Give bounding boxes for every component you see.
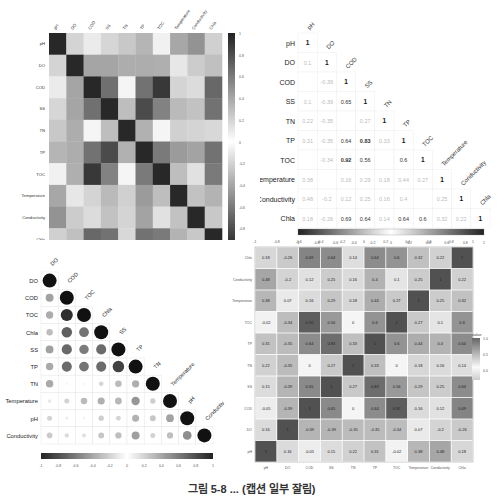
svg-text:1: 1 (344, 78, 348, 85)
row-label: DO (39, 63, 46, 68)
row-label: TN (39, 128, 45, 133)
heatmap-cell (205, 163, 223, 185)
heatmap-cell (101, 33, 119, 55)
svg-text:0.6: 0.6 (427, 240, 432, 244)
svg-text:1: 1 (363, 98, 367, 105)
svg-text:-0.2: -0.2 (437, 427, 445, 432)
svg-text:0.4: 0.4 (159, 464, 164, 468)
svg-text:-1: -1 (253, 240, 256, 244)
correlation-circle (94, 325, 108, 339)
svg-text:-0.26: -0.26 (458, 427, 468, 432)
correlation-circle (98, 432, 104, 438)
svg-text:1: 1 (459, 195, 463, 202)
svg-text:DO: DO (285, 466, 291, 470)
correlation-circle (197, 428, 211, 442)
svg-text:0.65: 0.65 (306, 384, 315, 389)
heatmap-cell (205, 228, 223, 240)
heatmap-cell (84, 98, 102, 120)
svg-text:pH: pH (187, 395, 196, 404)
correlation-circle (47, 433, 53, 439)
svg-text:Conductivity: Conductivity (431, 466, 450, 470)
svg-text:0.2: 0.2 (383, 240, 388, 244)
svg-text:0.64: 0.64 (327, 255, 336, 260)
svg-text:Conductivity: Conductivity (460, 159, 487, 186)
svg-text:0.22: 0.22 (458, 277, 467, 282)
row-label: COD (36, 85, 45, 90)
heatmap-cell (187, 33, 205, 55)
svg-text:-0.4: -0.4 (90, 464, 96, 468)
correlation-circle (116, 416, 121, 421)
svg-text:0.6: 0.6 (394, 341, 400, 346)
svg-text:TP: TP (31, 364, 39, 370)
svg-text:0: 0 (363, 240, 365, 244)
svg-text:-0.35: -0.35 (370, 427, 380, 432)
correlation-circle (64, 398, 69, 403)
svg-text:TN: TN (286, 118, 295, 125)
svg-text:0.38: 0.38 (302, 177, 313, 183)
heatmap-cell (84, 55, 102, 77)
heatmap-cell (187, 163, 205, 185)
svg-text:0.48: 0.48 (262, 277, 271, 282)
correlation-circle (99, 381, 104, 386)
svg-text:1: 1 (472, 240, 474, 244)
svg-text:0.44: 0.44 (398, 177, 409, 183)
heatmap-cell (101, 98, 119, 120)
correlation-circle (61, 309, 73, 321)
heatmap-cell (187, 120, 205, 142)
heatmap-cell (101, 163, 119, 185)
heatmap-cell (118, 76, 136, 98)
row-label: TOC (36, 172, 45, 177)
svg-text:DO: DO (325, 39, 336, 50)
heatmap-cell (101, 228, 119, 240)
heatmap-cell (153, 163, 171, 185)
svg-text:0.16: 0.16 (284, 449, 293, 454)
svg-text:-0.02: -0.02 (392, 449, 402, 454)
svg-text:0.31: 0.31 (262, 341, 271, 346)
svg-text:1: 1 (383, 117, 387, 124)
svg-text:Temperature: Temperature (5, 398, 38, 404)
svg-text:0.92: 0.92 (341, 157, 352, 163)
correlation-circle (150, 398, 155, 403)
row-label: SS (39, 106, 45, 111)
svg-text:pH: pH (248, 450, 253, 454)
svg-text:Temperature: Temperature (260, 176, 295, 184)
svg-text:-0.2: -0.2 (284, 277, 292, 282)
svg-text:-0.35: -0.35 (321, 118, 334, 124)
svg-text:0.16: 0.16 (415, 406, 424, 411)
svg-text:0.44: 0.44 (415, 341, 424, 346)
svg-text:Chla: Chla (101, 305, 114, 318)
svg-text:-0.34: -0.34 (283, 320, 293, 325)
heatmap-cell (205, 207, 223, 229)
svg-text:0.14: 0.14 (379, 216, 390, 222)
correlation-circle (79, 362, 89, 372)
heatmap-cell (170, 55, 188, 77)
svg-text:-0.4: -0.4 (317, 240, 323, 244)
col-label: TN (122, 23, 129, 30)
svg-text:0.6: 0.6 (176, 464, 181, 468)
svg-text:1: 1 (306, 39, 310, 46)
circle-plot-svg: DODOCODCODTOCTOCChlaChlaSSSSTPTPTNTNTemp… (0, 250, 240, 470)
col-label: Conductivity (191, 8, 209, 30)
heatmap-cell (49, 142, 67, 164)
heatmap-cell (84, 142, 102, 164)
svg-text:-0.35: -0.35 (321, 138, 334, 144)
svg-text:SS: SS (118, 326, 128, 336)
heatmap-cell (153, 120, 171, 142)
svg-text:TP: TP (135, 343, 144, 352)
svg-text:SS: SS (247, 385, 252, 389)
row-label: Conductivity (22, 215, 46, 220)
correlation-circle (60, 291, 74, 305)
colorbar (41, 453, 213, 459)
svg-text:0.64: 0.64 (306, 341, 315, 346)
svg-text:-0.4: -0.4 (239, 184, 245, 188)
svg-text:0.22: 0.22 (456, 216, 467, 222)
correlation-circle (79, 327, 89, 337)
svg-text:0.4: 0.4 (372, 277, 378, 282)
svg-text:0.32: 0.32 (415, 255, 424, 260)
heatmap-cell (153, 185, 171, 207)
svg-text:0.8: 0.8 (193, 464, 198, 468)
heatmap-cell (66, 185, 84, 207)
row-label: pH (40, 41, 45, 46)
correlation-circle (150, 433, 155, 438)
svg-text:0.4: 0.4 (438, 341, 444, 346)
